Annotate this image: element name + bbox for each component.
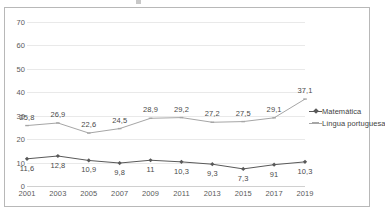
data-label: 24,5 bbox=[112, 116, 127, 125]
series-lines bbox=[27, 22, 305, 186]
x-tick-label: 2001 bbox=[18, 189, 35, 198]
x-tick-label: 2011 bbox=[173, 189, 190, 198]
data-label: 28,9 bbox=[143, 105, 158, 114]
top-edge-artifact bbox=[136, 0, 141, 4]
y-tick-label: 70 bbox=[9, 18, 25, 27]
y-axis: 010203040506070 bbox=[5, 22, 25, 186]
data-label: 10,3 bbox=[298, 167, 313, 176]
x-tick-label: 2007 bbox=[111, 189, 128, 198]
y-tick-label: 20 bbox=[9, 135, 25, 144]
series-marker bbox=[303, 160, 307, 164]
y-tick-label: 40 bbox=[9, 88, 25, 97]
legend-label: Matemática bbox=[322, 107, 361, 116]
legend-key-icon bbox=[309, 107, 322, 116]
series-marker bbox=[210, 162, 214, 166]
chart-legend: MatemáticaLíngua portuguesa bbox=[309, 106, 379, 130]
x-axis: 2001200320052007200920112013201520172019 bbox=[27, 189, 305, 203]
data-label: 10,3 bbox=[174, 167, 189, 176]
data-label: 7,3 bbox=[238, 174, 249, 183]
x-tick-label: 2003 bbox=[49, 189, 66, 198]
series-marker bbox=[272, 163, 276, 167]
series-marker bbox=[148, 158, 152, 162]
data-label: 22,6 bbox=[81, 120, 96, 129]
data-label: 29,2 bbox=[174, 105, 189, 114]
y-tick-label: 60 bbox=[9, 41, 25, 50]
data-label: 11,6 bbox=[20, 164, 34, 173]
series-marker bbox=[25, 157, 29, 161]
series-marker bbox=[56, 154, 60, 158]
gridline-0 bbox=[27, 186, 305, 187]
chart-frame: 010203040506070 11,612,810,99,81110,39,3… bbox=[4, 7, 370, 207]
data-label: 11 bbox=[147, 165, 155, 174]
x-tick-label: 2009 bbox=[142, 189, 159, 198]
x-tick-label: 2005 bbox=[80, 189, 97, 198]
series-marker bbox=[179, 160, 183, 164]
y-tick-label: 50 bbox=[9, 64, 25, 73]
plot-area: 11,612,810,99,81110,39,37,39110,325,826,… bbox=[27, 22, 305, 186]
data-label: 37,1 bbox=[298, 86, 313, 95]
series-line bbox=[27, 156, 305, 169]
data-label: 9,8 bbox=[114, 168, 125, 177]
data-label: 25,8 bbox=[20, 113, 35, 122]
data-label: 9,3 bbox=[207, 169, 218, 178]
legend-label: Língua portuguesa bbox=[322, 119, 385, 128]
data-label: 12,8 bbox=[50, 161, 65, 170]
data-label: 10,9 bbox=[81, 165, 96, 174]
data-label: 26,9 bbox=[50, 110, 65, 119]
series-marker bbox=[118, 161, 122, 165]
x-tick-label: 2019 bbox=[296, 189, 313, 198]
data-label: 27,2 bbox=[205, 109, 220, 118]
series-marker bbox=[87, 158, 91, 162]
x-tick-label: 2013 bbox=[204, 189, 221, 198]
legend-item-lingua-portuguesa[interactable]: Língua portuguesa bbox=[309, 118, 379, 129]
x-tick-label: 2015 bbox=[235, 189, 252, 198]
data-label: 29,1 bbox=[267, 105, 282, 114]
legend-item-matematica[interactable]: Matemática bbox=[309, 106, 379, 117]
data-label: 91 bbox=[270, 170, 279, 179]
legend-key-icon bbox=[309, 119, 322, 128]
x-tick-label: 2017 bbox=[266, 189, 283, 198]
data-label: 27,5 bbox=[236, 109, 251, 118]
series-line bbox=[27, 99, 305, 133]
series-marker bbox=[241, 167, 245, 171]
